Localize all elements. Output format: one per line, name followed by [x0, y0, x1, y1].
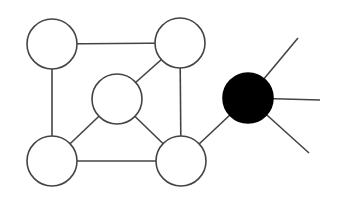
node-top-left	[27, 19, 77, 69]
graph-diagram	[0, 0, 340, 202]
node-center	[92, 74, 142, 124]
node-bottom-left	[27, 136, 77, 186]
graph-diagram-svg	[0, 0, 340, 202]
node-bottom-right	[156, 136, 206, 186]
node-hub	[223, 73, 273, 123]
node-top-right	[155, 18, 205, 68]
